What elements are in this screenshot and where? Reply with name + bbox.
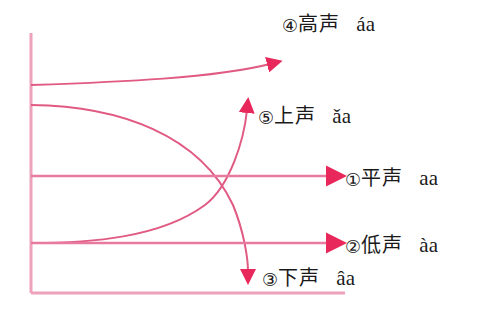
tone-cjk-4: 高声 [298,12,340,36]
tone-cjk-3: 下声 [278,266,320,290]
tone-label-3: ③下声âa [262,262,355,291]
tone-roman-3: âa [336,266,355,290]
tone-cjk-5: 上声 [274,104,316,128]
tone-label-5: ⑤上声ǎa [258,100,351,129]
tone-cjk-1: 平声 [361,166,403,190]
tone-roman-5: ǎa [332,104,351,128]
tone-marker-5: ⑤ [258,107,274,128]
tone-3-contour [31,105,248,272]
tone-label-1: ①平声aa [345,162,438,191]
tone-4-contour [31,64,270,85]
tone-cjk-2: 低声 [361,233,403,257]
tone-marker-4: ④ [282,15,298,36]
tone-marker-2: ② [345,236,361,257]
tone-label-2: ②低声àa [345,229,438,258]
tone-marker-3: ③ [262,269,278,290]
tone-marker-1: ① [345,169,361,190]
tone-roman-2: àa [419,233,438,257]
tone-roman-1: aa [419,166,438,190]
tone-label-4: ④高声áa [282,8,375,37]
tone-roman-4: áa [356,12,375,36]
tone-contour-diagram [0,0,491,311]
